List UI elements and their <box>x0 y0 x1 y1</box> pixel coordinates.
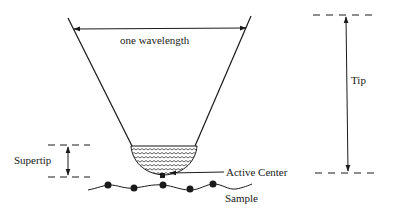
funnel-right-wall <box>195 16 251 146</box>
tip-arrow <box>346 17 348 171</box>
tip-label: Tip <box>351 74 366 86</box>
sample-particle <box>210 181 217 188</box>
tip-dimension: Tip <box>313 15 380 173</box>
active-center-marker <box>160 173 165 178</box>
supertip-dimension: Supertip <box>14 145 90 177</box>
probe-tip-diagram: one wavelength Active Center Sample Supe… <box>0 0 393 213</box>
supertip-bowl <box>131 146 197 175</box>
wavelength-dimension: one wavelength <box>74 28 246 46</box>
active-center-label: Active Center <box>226 166 288 178</box>
sample-particle <box>131 185 138 192</box>
wavelength-arrow <box>74 28 246 29</box>
wavelength-label: one wavelength <box>120 34 190 46</box>
sample-wavy-line <box>88 184 252 190</box>
supertip-label: Supertip <box>14 154 52 166</box>
sample-particle <box>160 182 167 189</box>
sample-label: Sample <box>225 192 258 204</box>
sample-particle <box>105 182 112 189</box>
sample-surface: Sample <box>88 181 258 205</box>
bowl-fill <box>131 146 197 175</box>
sample-particle <box>187 186 194 193</box>
